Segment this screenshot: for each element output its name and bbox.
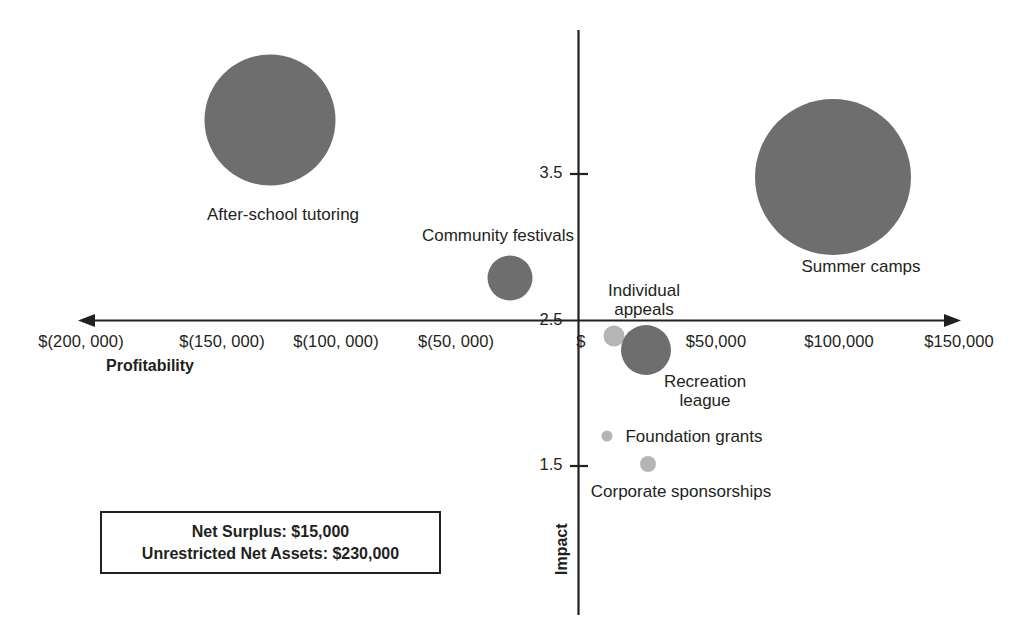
y-tick-label-2-5: 2.5: [539, 310, 562, 328]
x-tick-label-100k: $100,000: [804, 332, 874, 350]
bubble-label-foundation-grants: Foundation grants: [625, 427, 762, 446]
bubble-community-festivals: [488, 256, 533, 301]
y-tick-label-3-5: 3.5: [539, 163, 562, 181]
x-tick-label-neg100k: $(100, 000): [293, 332, 379, 350]
x-axis-title: Profitability: [106, 357, 194, 375]
unrestricted-net-assets-text: Unrestricted Net Assets: $230,000: [142, 543, 399, 565]
bubble-foundation-grants: [602, 431, 613, 442]
bubble-label-corporate-sponsorships: Corporate sponsorships: [591, 482, 771, 501]
bubble-individual-appeals: [604, 326, 625, 347]
bubble-label-summer-camps: Summer camps: [801, 257, 920, 276]
x-tick-label-neg200k: $(200, 000): [38, 332, 124, 350]
bubble-label-after-school-tutoring: After-school tutoring: [207, 205, 359, 224]
x-tick-label-50k: $50,000: [686, 332, 746, 350]
bubble-recreation-league: [621, 325, 671, 375]
bubble-summer-camps: [755, 99, 911, 255]
bubble-after-school-tutoring: [205, 55, 336, 186]
x-axis-left-arrowhead: [78, 314, 95, 327]
bubble-chart: $(200, 000) $(150, 000) $(100, 000) $(50…: [0, 0, 1033, 644]
x-axis-right-arrowhead: [944, 314, 961, 327]
y-axis-title: Impact: [553, 523, 571, 575]
bubble-corporate-sponsorships: [640, 456, 656, 472]
y-axis: [570, 30, 588, 615]
x-tick-label-150k: $150,000: [924, 332, 994, 350]
summary-callout-box: Net Surplus: $15,000 Unrestricted Net As…: [100, 511, 441, 574]
bubble-label-recreation-league: Recreation league: [664, 372, 746, 410]
x-axis: [78, 314, 961, 327]
bubble-label-individual-appeals: Individual appeals: [608, 281, 680, 319]
x-tick-label-zero: $: [576, 332, 585, 350]
y-tick-label-1-5: 1.5: [539, 455, 562, 473]
x-tick-label-neg50k: $(50, 000): [418, 332, 494, 350]
x-tick-label-neg150k: $(150, 000): [179, 332, 265, 350]
net-surplus-text: Net Surplus: $15,000: [192, 521, 349, 543]
bubble-label-community-festivals: Community festivals: [422, 226, 574, 245]
